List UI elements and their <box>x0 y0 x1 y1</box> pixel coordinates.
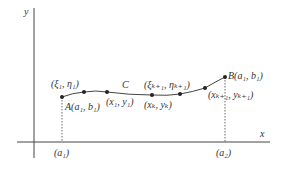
point-b-coords: (a₁, b₁) <box>234 70 263 82</box>
curve-partition-diagram: y x (ξ₁, η₁) C (x₁, y₁) (ξₖ₊₁, ηₖ₊₁) (xₖ… <box>0 0 282 171</box>
label-point-a: A(a₁, b₁) <box>64 101 100 113</box>
point-b <box>223 75 227 79</box>
x-axis-label: x <box>259 128 265 139</box>
label-xikp1: (ξₖ₊₁, ηₖ₊₁) <box>144 79 190 91</box>
label-a2: (a₂) <box>216 147 232 159</box>
label-xi1: (ξ₁, η₁) <box>51 78 80 90</box>
point-xikp1 <box>178 92 182 96</box>
label-point-b: B(a₁, b₁) <box>228 70 263 82</box>
point-a <box>60 95 64 99</box>
label-a1: (a₁) <box>54 147 70 159</box>
label-curve-c: C <box>122 79 129 90</box>
label-xkp1: (xₖ₊₁, yₖ₊₁) <box>208 89 254 101</box>
label-xkyk: (xₖ, yₖ) <box>144 99 173 111</box>
y-axis-label: y <box>23 6 29 17</box>
point-xi1 <box>82 90 86 94</box>
point-a-coords: (a₁, b₁) <box>71 101 100 113</box>
point-xkp1 <box>203 86 207 90</box>
point-xk <box>150 93 154 97</box>
label-x1y1: (x₁, y₁) <box>106 96 134 108</box>
point-x1 <box>105 90 109 94</box>
